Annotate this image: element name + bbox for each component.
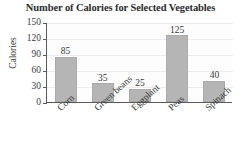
y-axis-title: Calories (8, 23, 18, 83)
chart-title: Number of Calories for Selected Vegetabl… (0, 2, 241, 13)
y-axis-tick (43, 87, 47, 88)
y-axis-tick-label: 0 (36, 98, 41, 108)
y-axis-tick-label: 60 (32, 66, 42, 76)
bar-value-label: 35 (98, 74, 108, 84)
bar-value-label: 25 (135, 79, 145, 89)
bar-value-label: 125 (170, 26, 184, 36)
bar-value-label: 40 (210, 71, 220, 81)
gridline (47, 23, 233, 24)
y-axis-tick (43, 55, 47, 56)
bar-value-label: 85 (61, 47, 71, 57)
y-axis-tick (43, 23, 47, 24)
gridline (47, 39, 233, 40)
y-axis-tick-label: 30 (32, 82, 42, 92)
y-axis-tick (43, 39, 47, 40)
plot-area: 030609012015085352512540 (46, 23, 232, 103)
y-axis-tick (43, 103, 47, 104)
y-axis-tick-label: 120 (27, 34, 41, 44)
y-axis-tick-label: 150 (27, 18, 41, 28)
y-axis-tick (43, 71, 47, 72)
bar[interactable]: 125 (166, 35, 188, 102)
y-axis-tick-label: 90 (32, 50, 42, 60)
bar-chart: Number of Calories for Selected Vegetabl… (0, 0, 241, 155)
